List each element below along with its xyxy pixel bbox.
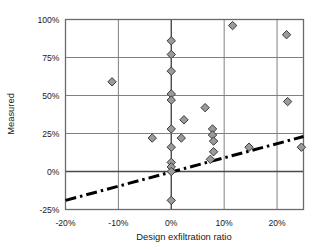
data-point-marker [167,96,175,104]
plot-frame [66,20,304,210]
data-point-marker [228,21,236,29]
y-tick-label: 75% [42,53,60,63]
data-point-marker [209,137,217,145]
trendline [66,137,304,201]
data-points [108,21,306,204]
gridlines [66,20,304,210]
y-tick-label: 50% [42,91,60,101]
data-point-marker [245,143,253,151]
x-tick-label: 20% [268,218,286,228]
data-point-marker [108,78,116,86]
x-tick-label: 10% [216,218,234,228]
data-point-marker [167,196,175,204]
chart-container: -20%-10%0%10%20% -25%0%25%50%75%100% Des… [0,0,323,250]
x-axis-title: Design exfiltration ratio [136,231,231,242]
y-tick-label: 100% [38,15,60,25]
scatter-plot: -20%-10%0%10%20% -25%0%25%50%75%100% Des… [0,0,323,250]
y-axis-tick-labels: -25%0%25%50%75%100% [38,15,60,215]
data-point-marker [167,67,175,75]
y-tick-label: -25% [39,205,59,215]
y-axis-title: Measured [5,93,16,135]
data-point-marker [283,97,291,105]
x-axis-tick-labels: -20%-10%0%10%20% [55,218,286,228]
data-point-marker [180,116,188,124]
x-tick-label: -20% [55,218,75,228]
data-point-marker [148,134,156,142]
y-tick-label: 0% [47,167,60,177]
data-point-marker [167,143,175,151]
data-point-marker [282,31,290,39]
x-tick-label: 0% [165,218,178,228]
plot-border [66,20,304,210]
data-point-marker [167,37,175,45]
data-point-marker [167,125,175,133]
data-point-marker [297,143,305,151]
data-point-marker [201,103,209,111]
trendline-path [66,137,304,201]
y-tick-label: 25% [42,129,60,139]
x-tick-label: -10% [108,218,128,228]
data-point-marker [177,134,185,142]
